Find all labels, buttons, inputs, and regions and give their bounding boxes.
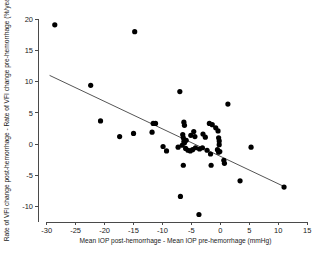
data-point: [248, 145, 253, 150]
y-tick-label: 10: [25, 77, 33, 86]
data-point: [192, 134, 197, 139]
data-point: [184, 138, 189, 143]
y-tick-label: 5: [29, 109, 33, 118]
x-tick-label: -5: [188, 226, 195, 235]
x-axis-title: Mean IOP post-hemorrhage - Mean IOP pre-…: [80, 237, 272, 245]
data-point: [178, 194, 183, 199]
y-tick-label: 0: [29, 140, 33, 149]
data-point: [182, 123, 187, 128]
plot-canvas: -10-505101520 -30-25-20-15-10-5051015 Me…: [0, 0, 327, 255]
data-point: [131, 131, 136, 136]
data-point: [281, 184, 286, 189]
data-point: [160, 144, 165, 149]
data-point: [177, 89, 182, 94]
data-point: [88, 83, 93, 88]
data-point: [208, 151, 213, 156]
data-points: [52, 22, 286, 217]
x-tick-label: -30: [41, 226, 52, 235]
y-axis-ticks: -10-505101520: [22, 15, 38, 211]
x-axis-ticks: -30-25-20-15-10-5051015: [41, 222, 311, 235]
data-point: [149, 130, 154, 135]
x-tick-label: 15: [303, 226, 311, 235]
data-point: [191, 129, 196, 134]
data-point: [52, 22, 57, 27]
data-point: [217, 149, 222, 154]
data-point: [217, 142, 222, 147]
y-axis-title: Rate of VFI change post-hemorrhage - Rat…: [3, 0, 11, 241]
y-tick-label: -10: [22, 202, 33, 211]
data-point: [132, 29, 137, 34]
data-point: [200, 145, 205, 150]
x-tick-label: -20: [99, 226, 110, 235]
data-point: [181, 163, 186, 168]
scatter-plot-figure: -10-505101520 -30-25-20-15-10-5051015 Me…: [0, 0, 327, 255]
x-tick-label: 0: [218, 226, 222, 235]
x-tick-label: -15: [128, 226, 139, 235]
x-tick-label: -25: [70, 226, 81, 235]
regression-fit-line: [50, 75, 286, 187]
data-point: [98, 118, 103, 123]
x-tick-label: 5: [247, 226, 251, 235]
data-point: [222, 161, 227, 166]
y-tick-label: 20: [25, 15, 33, 24]
data-point: [164, 148, 169, 153]
data-point: [225, 101, 230, 106]
data-point: [196, 212, 201, 217]
x-tick-label: -10: [157, 226, 168, 235]
data-point: [117, 134, 122, 139]
data-point: [215, 128, 220, 133]
data-point: [153, 121, 158, 126]
data-point: [237, 178, 242, 183]
data-point: [203, 135, 208, 140]
data-point: [209, 163, 214, 168]
x-tick-label: 10: [274, 226, 282, 235]
y-tick-label: 15: [25, 46, 33, 55]
y-tick-label: -5: [26, 171, 33, 180]
